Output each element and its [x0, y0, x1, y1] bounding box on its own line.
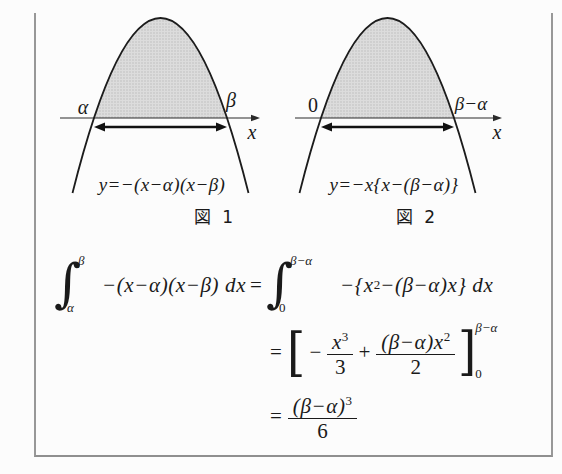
fig2-caption: 図 2	[396, 203, 438, 228]
fig1-interval-arrowhead-left	[94, 123, 105, 132]
fraction-beta-alpha-x-squared-over-2: (β−α)x2 2	[376, 326, 455, 378]
rhs-integrand-post: −(β−α)x} dx	[380, 273, 493, 298]
fraction-numerator: (β−α)x2	[376, 326, 455, 355]
equals-sign-2: =	[270, 340, 282, 365]
fig2-right-root-label: β−α	[455, 93, 487, 115]
fig2-axis-label: x	[493, 121, 502, 144]
lhs-integral-upper-limit: β	[78, 253, 84, 269]
fig2-left-root-label: 0	[308, 94, 318, 117]
frac2-base: (β−α)x	[381, 330, 444, 354]
frac1-base: x	[332, 330, 342, 354]
rhs-integral-lower-limit: 0	[279, 300, 286, 316]
equals-sign-3: =	[270, 404, 282, 429]
plus-sign: +	[357, 340, 372, 365]
fraction-result: (β−α)3 6	[288, 390, 357, 442]
rhs-integrand-pre: −{x	[340, 273, 374, 298]
fig1-interval-arrowhead-right	[216, 123, 227, 132]
fraction-numerator: (β−α)3	[288, 390, 357, 419]
result-exponent: 3	[345, 393, 352, 408]
bracket-upper-limit: β−α	[475, 320, 497, 336]
fig1-left-root-label: α	[78, 96, 89, 119]
derivation-line-1: ∫ β α −(x−α)(x−β) dx = ∫ β−α 0 −{x2−(β−α…	[54, 256, 493, 314]
fig2-interval-arrowhead-left	[321, 123, 332, 132]
minus-sign: −	[308, 340, 323, 365]
fig1-caption: 図 1	[194, 203, 236, 228]
fraction-denominator: 6	[317, 419, 328, 442]
equals-sign-1: =	[250, 273, 262, 298]
fraction-numerator: x3	[327, 326, 353, 355]
fraction-x-cubed-over-3: x3 3	[327, 326, 353, 378]
lhs-integrand: −(x−α)(x−β) dx	[102, 273, 246, 298]
fig1-right-root-label: β	[226, 89, 236, 112]
evaluation-bracket: ] β−α 0	[457, 322, 515, 382]
scanned-textbook-page: α β x y=−(x−α)(x−β) 図 1 0 β−α x y=−x{x−(…	[0, 0, 562, 474]
rhs-integral-upper-limit: β−α	[290, 253, 312, 269]
frac2-exponent: 2	[444, 329, 451, 344]
lhs-integral-lower-limit: α	[67, 300, 74, 316]
derivation-line-2: = [ − x3 3 + (β−α)x2 2 ] β−α 0	[266, 322, 515, 382]
frac1-exponent: 3	[342, 329, 349, 344]
lhs-definite-integral: ∫ β α	[54, 256, 98, 314]
fraction-denominator: 2	[410, 355, 421, 378]
bracket-lower-limit: 0	[475, 366, 482, 382]
figure-2: 0 β−α x y=−x{x−(β−α)} 図 2	[295, 8, 530, 228]
fig2-equation: y=−x{x−(β−α)}	[329, 174, 458, 196]
fig1-axis-label: x	[248, 121, 257, 144]
derivation-line-3: = (β−α)3 6	[266, 388, 359, 444]
result-base: (β−α)	[293, 394, 346, 418]
open-square-bracket: [	[287, 327, 305, 377]
close-square-bracket: ]	[458, 326, 476, 376]
fraction-denominator: 3	[335, 355, 346, 378]
fig1-equation: y=−(x−α)(x−β)	[99, 174, 226, 196]
fig2-interval-arrowhead-right	[443, 123, 454, 132]
rhs-definite-integral: ∫ β−α 0	[266, 256, 338, 314]
figure-1: α β x y=−(x−α)(x−β) 図 1	[30, 8, 270, 228]
